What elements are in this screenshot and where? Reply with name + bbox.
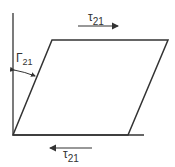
shear-angle-arc-icon [14, 70, 35, 76]
bottom-shear-label: τ21 [63, 147, 79, 164]
shear-angle-label: Γ21 [16, 51, 33, 67]
sheared-element [13, 40, 168, 135]
top-shear-label: τ21 [88, 10, 104, 27]
shear-diagram: τ21 τ21 Γ21 [0, 0, 175, 167]
